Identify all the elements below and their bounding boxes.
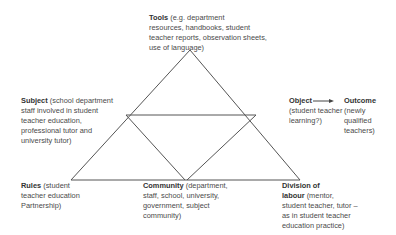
division-title: Division of	[282, 181, 320, 190]
subject-title: Subject	[21, 96, 48, 105]
object-label: Object (student teacher learning?)	[289, 96, 342, 126]
object-title: Object	[289, 96, 312, 105]
subject-label: Subject (school department staff involve…	[21, 96, 113, 146]
inner-left-diagonal	[126, 115, 185, 180]
outcome-label: Outcome (newly qualified teachers)	[344, 96, 376, 136]
tools-label: Tools (e.g. department resources, handbo…	[149, 13, 267, 53]
division-label: Division of labour (mentor, student teac…	[282, 181, 358, 231]
rules-title: Rules	[21, 181, 41, 190]
community-label: Community (department, staff, school, un…	[143, 181, 228, 221]
inner-right-diagonal	[187, 115, 256, 180]
tools-title: Tools	[149, 13, 168, 22]
community-title: Community	[143, 181, 184, 190]
outcome-title: Outcome	[344, 96, 376, 105]
rules-label: Rules (student teacher education Partner…	[21, 181, 80, 211]
